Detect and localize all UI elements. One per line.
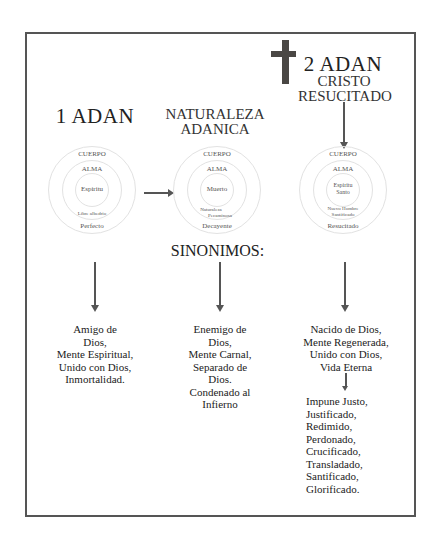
list-item: Enemigo de bbox=[170, 323, 270, 336]
label-inner-lower: Libre albedrio bbox=[62, 211, 122, 217]
heading-synonyms: SINONIMOS: bbox=[160, 242, 275, 260]
list-item: Nacido de Dios, bbox=[290, 323, 402, 336]
list-item: Condenado al bbox=[170, 386, 270, 399]
list-adamic-nature: Enemigo de Dios, Mente Carnal, Separado … bbox=[170, 323, 270, 411]
label-soul: ALMA bbox=[62, 165, 122, 173]
label-spirit-2: Santo bbox=[313, 189, 373, 196]
list-item: Dios, bbox=[40, 336, 150, 349]
label-soul: ALMA bbox=[313, 165, 373, 173]
label-body: CUERPO bbox=[313, 150, 373, 158]
heading-adamic-nature: NATURALEZA ADANICA bbox=[160, 107, 270, 137]
label-inner-lower: Naturaleza Pecaminosa bbox=[187, 207, 247, 219]
list-second-adam: Nacido de Dios, Mente Regenerada, Unido … bbox=[290, 323, 402, 373]
list-item: Mente Regenerada, bbox=[290, 336, 402, 349]
heading-adamic-nature-line1: NATURALEZA bbox=[160, 107, 270, 122]
list-item: Redimido, bbox=[306, 420, 406, 433]
label-spirit: Muerto bbox=[187, 185, 247, 193]
label-spirit: Espiritu Santo bbox=[313, 182, 373, 196]
list-second-adam-more: Impune Justo, Justificado, Redimido, Per… bbox=[306, 395, 406, 495]
label-state: Decayente bbox=[187, 222, 247, 230]
label-body: CUERPO bbox=[187, 150, 247, 158]
label-spirit: Espiritu bbox=[62, 185, 122, 193]
list-item: Perdonado, bbox=[306, 433, 406, 446]
label-spirit-1: Espiritu bbox=[313, 182, 373, 189]
heading-risen-christ: CRISTO RESUCITADO bbox=[298, 74, 390, 104]
heading-first-adam: 1 ADAN bbox=[55, 104, 135, 129]
list-item: Transladado, bbox=[306, 458, 406, 471]
list-item: Justificado, bbox=[306, 408, 406, 421]
list-item: Vida Eterna bbox=[290, 361, 402, 374]
list-item: Glorificado. bbox=[306, 483, 406, 496]
label-state: Resucitado bbox=[313, 222, 373, 230]
list-item: Mente Carnal, bbox=[170, 348, 270, 361]
label-body: CUERPO bbox=[62, 150, 122, 158]
list-item: Crucificado, bbox=[306, 445, 406, 458]
list-item: Amigo de bbox=[40, 323, 150, 336]
list-item: Dios, bbox=[170, 336, 270, 349]
label-soul: ALMA bbox=[187, 165, 247, 173]
list-item: Inmortalidad. bbox=[40, 373, 150, 386]
list-item: Dios. bbox=[170, 373, 270, 386]
heading-risen-christ-line1: CRISTO bbox=[298, 74, 390, 89]
list-first-adam: Amigo de Dios, Mente Espiritual, Unido c… bbox=[40, 323, 150, 386]
list-item: Santificado, bbox=[306, 470, 406, 483]
list-item: Impune Justo, bbox=[306, 395, 406, 408]
label-inner-lower-2: Pecaminosa bbox=[193, 213, 247, 219]
heading-adamic-nature-line2: ADANICA bbox=[160, 122, 270, 137]
list-item: Separado de bbox=[170, 361, 270, 374]
list-item: Unido con Dios, bbox=[290, 348, 402, 361]
label-state: Perfecto bbox=[62, 222, 122, 230]
label-inner-lower-2: Santificado bbox=[313, 212, 373, 218]
list-item: Unido con Dios, bbox=[40, 361, 150, 374]
label-inner-lower: Nuevo Hombre Santificado bbox=[313, 206, 373, 218]
list-item: Infierno bbox=[170, 398, 270, 411]
list-item: Mente Espiritual, bbox=[40, 348, 150, 361]
